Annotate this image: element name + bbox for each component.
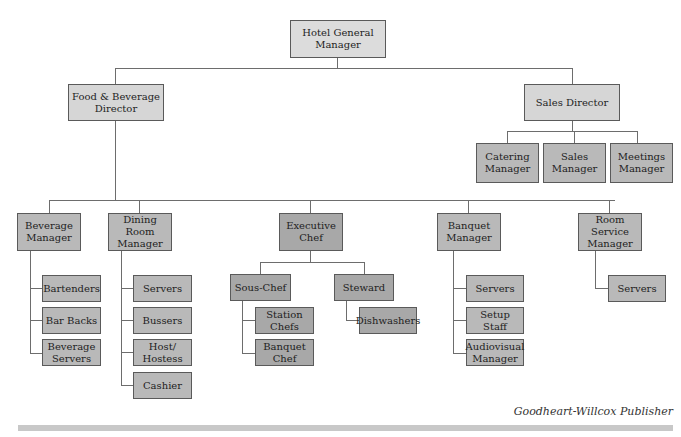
node-beverage-manager: Beverage Manager <box>17 213 81 251</box>
connector <box>121 320 133 321</box>
node-catering-manager: Catering Manager <box>476 143 539 183</box>
connector <box>572 120 573 131</box>
node-food-beverage-director: Food & Beverage Director <box>68 84 164 121</box>
connector <box>139 200 140 213</box>
connector <box>121 385 133 386</box>
connector <box>242 320 255 321</box>
node-dining-servers: Servers <box>133 275 192 302</box>
node-dishwashers: Dishwashers <box>359 307 417 334</box>
publisher-credit: Goodheart-Willcox Publisher <box>514 405 673 418</box>
node-meetings-manager: Meetings Manager <box>610 143 673 183</box>
node-setup-staff: Setup Staff <box>466 307 524 334</box>
connector <box>30 353 42 354</box>
connector <box>595 288 608 289</box>
node-room-service-servers: Servers <box>608 275 666 302</box>
connector <box>346 300 347 320</box>
connector <box>507 131 637 132</box>
node-cashier: Cashier <box>133 372 192 399</box>
connector <box>595 250 596 288</box>
connector <box>242 300 243 353</box>
connector <box>337 57 338 68</box>
connector <box>115 68 116 84</box>
connector <box>574 131 575 143</box>
connector <box>453 353 466 354</box>
connector <box>115 68 573 69</box>
footer-rule <box>18 425 673 431</box>
connector <box>30 288 42 289</box>
node-sales-manager: Sales Manager <box>543 143 606 183</box>
connector <box>49 200 615 201</box>
connector <box>453 288 466 289</box>
node-beverage-servers: Beverage Servers <box>42 339 101 366</box>
connector <box>364 262 365 274</box>
connector <box>453 320 466 321</box>
node-executive-chef: Executive Chef <box>279 213 343 251</box>
node-sales-director: Sales Director <box>524 84 620 121</box>
connector <box>310 250 311 262</box>
connector <box>453 250 454 353</box>
connector <box>121 352 133 353</box>
connector <box>468 200 469 213</box>
connector <box>121 250 122 385</box>
connector <box>121 288 133 289</box>
connector <box>30 250 31 353</box>
connector <box>260 262 364 263</box>
connector <box>310 200 311 213</box>
node-room-service-manager: Room Service Manager <box>578 213 642 251</box>
node-hotel-general-manager: Hotel General Manager <box>290 20 386 58</box>
node-audiovisual-manager: Audiovisual Manager <box>466 339 524 366</box>
connector <box>242 353 255 354</box>
node-bartenders: Bartenders <box>42 275 101 302</box>
node-station-chefs: Station Chefs <box>255 307 314 334</box>
connector <box>609 200 610 213</box>
connector <box>49 200 50 213</box>
connector <box>572 68 573 84</box>
connector <box>507 131 508 143</box>
node-host-hostess: Host/ Hostess <box>133 339 192 366</box>
node-dining-room-manager: Dining Room Manager <box>108 213 172 251</box>
node-banquet-servers: Servers <box>466 275 524 302</box>
connector <box>30 320 42 321</box>
node-banquet-manager: Banquet Manager <box>437 213 501 251</box>
node-bussers: Bussers <box>133 307 192 334</box>
connector <box>115 120 116 200</box>
node-steward: Steward <box>334 274 394 301</box>
node-banquet-chef: Banquet Chef <box>255 339 314 366</box>
node-bar-backs: Bar Backs <box>42 307 101 334</box>
connector <box>637 131 638 143</box>
node-sous-chef: Sous-Chef <box>230 274 291 301</box>
connector <box>260 262 261 274</box>
